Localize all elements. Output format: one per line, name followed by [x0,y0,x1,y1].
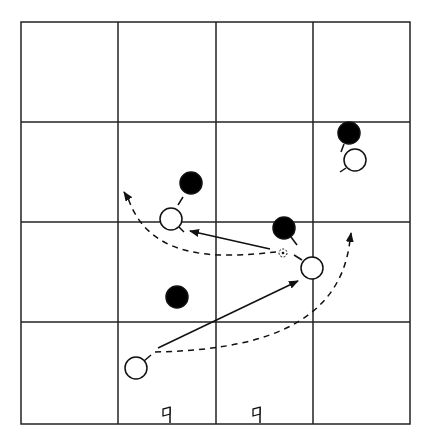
flag-icon [253,407,260,416]
pass-arrow-icon [190,231,270,249]
defender-icon [166,286,188,308]
player-facing-indicator [294,255,302,260]
flag-icon [163,407,170,416]
attacker-icon [160,208,182,230]
player-facing-indicator [340,168,346,172]
field-grid [21,22,410,424]
player-facing-indicator [179,227,184,232]
player-facing-indicator [341,144,344,152]
flags [163,407,260,423]
defender-icon [273,217,295,239]
attacker-icon [344,149,366,171]
attacker-icon [125,357,147,379]
defender-icon [338,122,360,144]
ball-center [282,252,285,255]
attacker-icon [301,257,323,279]
drill-diagram: Soccer drill diagram [0,0,428,447]
player-facing-indicator [178,197,183,205]
player-facing-indicator [291,237,297,245]
players [125,122,366,379]
diagram-canvas [0,0,428,447]
defender-icon [180,172,202,194]
player-facing-indicator [144,355,151,361]
ball [279,249,287,257]
